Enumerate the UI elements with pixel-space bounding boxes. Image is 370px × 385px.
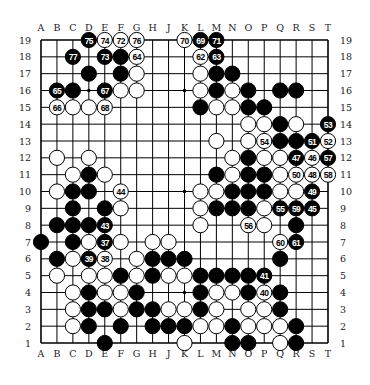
black-stone <box>193 100 208 115</box>
stone-disc <box>97 268 112 283</box>
stone-disc <box>273 335 288 350</box>
stone-disc <box>241 184 256 199</box>
stone-disc <box>193 66 208 81</box>
white-stone: 38 <box>97 251 112 266</box>
stone-disc <box>193 184 208 199</box>
black-stone <box>273 302 288 317</box>
white-stone <box>289 184 304 199</box>
stone-disc <box>177 335 192 350</box>
column-label: A <box>37 22 45 33</box>
move-number: 77 <box>69 52 78 62</box>
stone-disc <box>193 100 208 115</box>
white-stone <box>65 302 80 317</box>
white-stone <box>161 268 176 283</box>
stone-disc <box>145 234 160 249</box>
white-stone <box>209 285 224 300</box>
black-stone <box>161 251 176 266</box>
column-label: P <box>261 22 268 33</box>
stone-disc <box>193 218 208 233</box>
white-stone <box>177 302 192 317</box>
column-label: D <box>85 348 93 359</box>
white-stone: 72 <box>113 32 128 47</box>
black-stone: 49 <box>304 184 319 199</box>
stone-disc <box>209 83 224 98</box>
black-stone <box>129 302 144 317</box>
black-stone <box>145 251 160 266</box>
move-number: 65 <box>53 86 62 96</box>
black-stone <box>241 150 256 165</box>
stone-disc <box>225 268 240 283</box>
black-stone <box>145 302 160 317</box>
stone-disc <box>225 167 240 182</box>
black-stone <box>113 49 128 64</box>
white-stone <box>273 184 288 199</box>
white-stone <box>241 319 256 334</box>
stone-disc <box>273 302 288 317</box>
black-stone <box>113 268 128 283</box>
stone-disc <box>225 319 240 334</box>
black-stone <box>241 268 256 283</box>
white-stone <box>193 319 208 334</box>
black-stone <box>209 167 224 182</box>
stone-disc <box>273 184 288 199</box>
white-stone: 68 <box>97 100 112 115</box>
move-number: 47 <box>292 153 301 163</box>
white-stone <box>113 302 128 317</box>
stone-disc <box>161 251 176 266</box>
white-stone <box>225 150 240 165</box>
black-stone: 43 <box>97 218 112 233</box>
stone-disc <box>289 335 304 350</box>
move-number: 68 <box>101 103 110 113</box>
stone-disc <box>289 117 304 132</box>
black-stone <box>65 184 80 199</box>
column-label: N <box>228 22 236 33</box>
stone-disc <box>209 66 224 81</box>
column-label: G <box>133 22 141 33</box>
row-label: 12 <box>340 152 352 163</box>
stone-disc <box>81 66 96 81</box>
column-label: D <box>85 22 93 33</box>
black-stone <box>81 184 96 199</box>
white-stone <box>97 167 112 182</box>
hoshi-point <box>183 89 187 93</box>
black-stone: 57 <box>320 150 335 165</box>
row-label: 10 <box>19 186 31 197</box>
stone-disc <box>209 268 224 283</box>
move-number: 48 <box>308 170 317 180</box>
stone-disc <box>129 285 144 300</box>
stone-disc <box>193 302 208 317</box>
black-stone <box>97 201 112 216</box>
stone-disc <box>209 133 224 148</box>
black-stone <box>241 100 256 115</box>
move-number: 61 <box>292 238 301 248</box>
row-label: 12 <box>19 152 31 163</box>
black-stone <box>81 218 96 233</box>
stone-disc <box>161 302 176 317</box>
black-stone: 71 <box>209 32 224 47</box>
black-stone <box>65 83 80 98</box>
stone-disc <box>161 319 176 334</box>
stone-disc <box>257 100 272 115</box>
stone-disc <box>97 285 112 300</box>
move-number: 59 <box>292 204 301 214</box>
white-stone <box>209 302 224 317</box>
black-stone <box>33 234 48 249</box>
stone-disc <box>161 234 176 249</box>
move-number: 52 <box>324 137 333 147</box>
white-stone: 60 <box>273 234 288 249</box>
stone-disc <box>49 184 64 199</box>
black-stone: 51 <box>304 133 319 148</box>
white-stone <box>113 285 128 300</box>
white-stone <box>193 201 208 216</box>
stone-disc <box>225 184 240 199</box>
stone-disc <box>289 184 304 199</box>
white-stone <box>113 83 128 98</box>
stone-disc <box>65 319 80 334</box>
black-stone <box>241 335 256 350</box>
column-label: F <box>117 348 124 359</box>
white-stone <box>161 234 176 249</box>
white-stone <box>257 150 272 165</box>
black-stone <box>81 285 96 300</box>
white-stone: 66 <box>49 100 64 115</box>
stone-disc <box>65 100 80 115</box>
